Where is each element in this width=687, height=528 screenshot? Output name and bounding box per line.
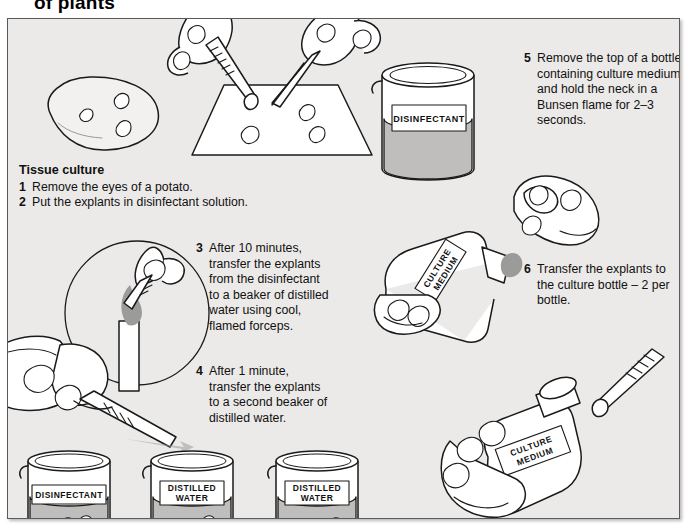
beaker-label-disinfectant-top: DISINFECTANT [393,114,464,124]
tissue-culture-step-2: 2 Put the explants in disinfectant solut… [19,195,319,211]
step-4: 4 After 1 minute, transfer the explants … [196,364,331,426]
step-text: After 10 minutes, transfer the explants … [209,241,331,335]
step-3-block: 3 After 10 minutes, transfer the explant… [196,241,331,335]
hand-holding-bottle-cap [506,171,626,263]
step-number: 1 [19,180,32,196]
forceps-dropping-explant [578,349,668,429]
step-6-block: 6 Transfer the explants to the culture b… [524,262,680,309]
step-3: 3 After 10 minutes, transfer the explant… [196,241,331,335]
beaker-label-distilled-2-line2: WATER [301,493,334,503]
step-text: Remove the eyes of a potato. [32,180,319,196]
step-number: 5 [524,51,537,67]
tissue-culture-heading: Tissue culture [19,163,319,179]
beaker-label-disinfectant-bottom: DISINFECTANT [35,490,103,500]
tissue-culture-step-1: 1 Remove the eyes of a potato. [19,180,319,196]
beaker-disinfectant-bottom: DISINFECTANT [18,449,130,519]
page-title: of plants [34,0,115,14]
step-text: Remove the top of a bottle containing cu… [537,51,680,129]
step-6: 6 Transfer the explants to the culture b… [524,262,680,309]
potato-illustration [32,69,172,159]
beaker-label-distilled-1-line1: DISTILLED [168,483,216,493]
beaker-distilled-water-1: DISTILLED WATER [141,449,253,519]
step-4-block: 4 After 1 minute, transfer the explants … [196,364,331,426]
beaker-label-distilled-1-line2: WATER [176,493,209,503]
beaker-label-distilled-2-line1: DISTILLED [293,483,341,493]
beaker-distilled-water-2: DISTILLED WATER [266,449,378,519]
step-text: Transfer the explants to the culture bot… [537,262,680,309]
beaker-disinfectant-top: DISINFECTANT [370,57,492,187]
step-number: 3 [196,241,209,257]
step-number: 2 [19,195,32,211]
arm-with-forceps [8,327,218,457]
step-text: Put the explants in disinfectant solutio… [32,195,319,211]
culture-medium-bottle-held: CULTURE MEDIUM [440,411,590,519]
illustration-page: of plants [0,0,687,528]
step-text: After 1 minute, transfer the explants to… [209,364,331,426]
illustration-frame: DISINFECTANT [7,18,680,519]
step-number: 4 [196,364,209,380]
tissue-culture-block: Tissue culture 1 Remove the eyes of a po… [19,163,319,211]
step-5: 5 Remove the top of a bottle containing … [524,51,680,129]
culture-medium-bottle-flamed: CULTURE MEDIUM [378,229,523,349]
hand-with-forceps [258,18,388,131]
step-number: 6 [524,262,537,278]
step-5-block: 5 Remove the top of a bottle containing … [524,51,680,129]
